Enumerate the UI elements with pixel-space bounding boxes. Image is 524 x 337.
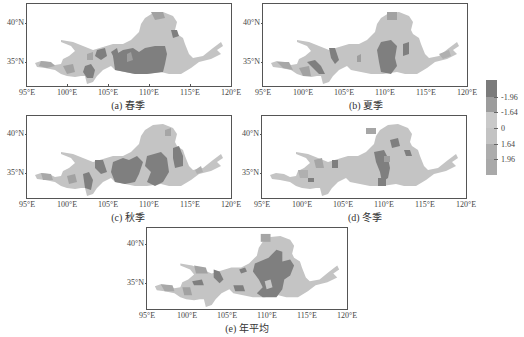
legend-tick [494, 159, 498, 160]
x-tick [67, 84, 68, 87]
y-tick-label-40n: 40°N [120, 239, 144, 248]
legend-band [486, 128, 497, 144]
x-tick-label: 105°E [98, 200, 118, 209]
map-frame-autumn [26, 115, 232, 199]
x-tick-label: 100°E [292, 200, 312, 209]
x-tick-label: 105°E [333, 200, 353, 209]
legend-band [486, 159, 497, 175]
x-tick-label: 100°E [177, 311, 197, 320]
x-tick [26, 84, 27, 87]
y-tick-label-35n: 35°N [0, 57, 24, 66]
y-tick-label-40n: 40°N [0, 18, 24, 27]
x-tick-label: 110°E [257, 311, 277, 320]
x-tick-label: 100°E [57, 200, 77, 209]
legend-tick [494, 144, 498, 145]
x-tick-label: 120°E [221, 88, 241, 97]
y-tick-label-35n: 35°N [0, 168, 24, 177]
x-tick-label: 95°E [254, 200, 270, 209]
caption-summer: (b) 夏季 [349, 97, 383, 112]
legend-tick [494, 97, 498, 98]
x-tick-label: 115°E [180, 88, 200, 97]
x-tick-label: 110°E [139, 200, 159, 209]
y-tick-label-40n: 40°N [0, 129, 24, 138]
x-tick-label: 120°E [456, 200, 476, 209]
legend-label: 1.96 [501, 155, 515, 164]
x-tick-label: 115°E [297, 311, 317, 320]
x-tick [190, 84, 191, 87]
x-tick-label: 105°E [334, 88, 354, 97]
x-tick-label: 105°E [98, 88, 118, 97]
x-tick-label: 115°E [416, 88, 436, 97]
x-tick [108, 84, 109, 87]
x-tick-label: 95°E [255, 88, 271, 97]
legend-band [486, 80, 497, 97]
y-tick-label-40n: 40°N [235, 129, 259, 138]
legend-label: -1.96 [501, 93, 518, 102]
x-tick [149, 84, 150, 87]
y-tick-label-35n: 35°N [236, 57, 260, 66]
map-frame-summer [262, 3, 468, 87]
basin-map-annual [147, 228, 348, 310]
x-tick-label: 120°E [221, 200, 241, 209]
x-tick-label: 95°E [139, 311, 155, 320]
caption-annual: (e) 年平均 [225, 320, 269, 335]
legend-tick [494, 112, 498, 113]
map-frame-spring [26, 3, 232, 87]
legend-tick [494, 128, 498, 129]
y-tick-label-35n: 35°N [120, 278, 144, 287]
x-tick-label: 95°E [19, 88, 35, 97]
legend-label: -1.64 [501, 108, 518, 117]
x-tick-label: 120°E [337, 311, 357, 320]
x-tick-label: 95°E [19, 200, 35, 209]
x-tick-label: 105°E [217, 311, 237, 320]
y-tick-label-35n: 35°N [235, 168, 259, 177]
legend-band [486, 112, 497, 128]
x-tick-label: 100°E [57, 88, 77, 97]
basin-map-spring [27, 4, 232, 87]
x-tick-label: 115°E [180, 200, 200, 209]
legend-band [486, 144, 497, 159]
x-tick-label: 110°E [375, 88, 395, 97]
legend-label: 0 [501, 124, 505, 133]
basin-map-summer [263, 4, 468, 87]
caption-autumn: (c) 秋季 [111, 209, 145, 224]
map-frame-annual [146, 227, 348, 310]
legend-band [486, 97, 497, 112]
x-tick-label: 115°E [415, 200, 435, 209]
x-tick-label: 110°E [139, 88, 159, 97]
caption-winter: (d) 冬季 [348, 209, 382, 224]
legend-label: 1.64 [501, 140, 515, 149]
caption-spring: (a) 春季 [111, 97, 145, 112]
x-tick-label: 100°E [293, 88, 313, 97]
basin-map-autumn [27, 116, 232, 199]
x-tick-label: 110°E [374, 200, 394, 209]
y-tick-label-40n: 40°N [236, 18, 260, 27]
colorbar-legend: -1.96 -1.64 0 1.64 1.96 [486, 80, 497, 175]
basin-map-winter [262, 116, 467, 199]
map-frame-winter [261, 115, 467, 199]
x-tick-label: 120°E [457, 88, 477, 97]
